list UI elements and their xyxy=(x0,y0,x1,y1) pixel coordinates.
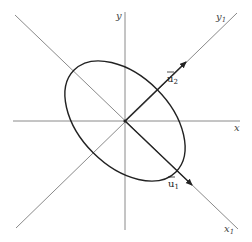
origin-point xyxy=(123,119,126,122)
u2-vector-label: u2 xyxy=(167,72,178,86)
y1-axis-label: y1 xyxy=(215,11,226,24)
diagram-canvas: y x y1 x1 u2 u1 xyxy=(0,0,252,242)
x-axis-label: x xyxy=(234,122,240,133)
svg-text:u2: u2 xyxy=(167,73,178,86)
svg-text:u1: u1 xyxy=(168,178,179,191)
y-axis-label: y xyxy=(115,10,122,21)
u1-vector-label: u1 xyxy=(168,177,179,191)
x1-axis-label: x1 xyxy=(224,223,234,236)
